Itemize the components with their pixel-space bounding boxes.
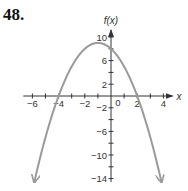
- y-tick-label: −6: [96, 126, 107, 137]
- y-tick-label: 10: [96, 32, 107, 43]
- x-tick-label: 0: [115, 97, 120, 108]
- y-tick-label: 2: [102, 79, 107, 90]
- y-axis-label: f(x): [104, 15, 118, 26]
- parabola-chart: −6−4−20241062−2−6−10−14 x f(x): [0, 0, 188, 191]
- x-axis-label: x: [176, 91, 183, 102]
- y-tick-label: 6: [102, 55, 107, 66]
- x-tick-label: −6: [27, 98, 38, 109]
- y-tick-label: −2: [96, 102, 107, 113]
- y-tick-label: −10: [91, 150, 107, 161]
- x-tick-label: −2: [79, 98, 90, 109]
- parabola-curve: [98, 43, 162, 182]
- y-tick-label: −14: [91, 173, 107, 184]
- parabola-curve-left: [34, 43, 98, 182]
- x-tick-label: 4: [161, 98, 166, 109]
- tick-labels: −6−4−20241062−2−6−10−14: [27, 32, 166, 185]
